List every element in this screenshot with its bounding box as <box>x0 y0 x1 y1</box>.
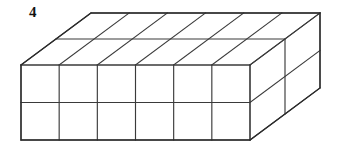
cube-block-figure: 4 <box>0 0 338 155</box>
cube-block-drawing <box>0 0 338 155</box>
